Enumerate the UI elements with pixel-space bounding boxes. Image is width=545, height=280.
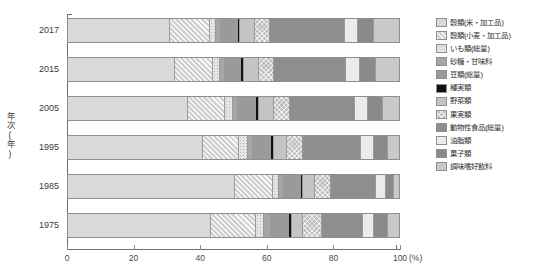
bar-segment bbox=[314, 175, 331, 198]
bar-segment bbox=[273, 97, 290, 120]
bar-segment bbox=[345, 58, 358, 81]
bar-segment bbox=[354, 97, 367, 120]
legend-swatch bbox=[436, 162, 447, 171]
bar-segment bbox=[302, 214, 320, 237]
legend-label: 菓子類 bbox=[450, 150, 471, 157]
legend-item: 穀類(米・加工品) bbox=[436, 16, 543, 29]
y-axis-tick-label: 2015 bbox=[25, 64, 59, 74]
bar-row: 1995 bbox=[67, 135, 400, 160]
x-axis-tick bbox=[333, 245, 334, 250]
bar-segment bbox=[270, 214, 288, 237]
bar-segment bbox=[344, 19, 357, 42]
y-axis-tick-label: 1975 bbox=[25, 220, 59, 230]
bar-segment bbox=[286, 136, 303, 159]
x-axis-tick bbox=[67, 245, 68, 250]
bar-segment bbox=[254, 19, 269, 42]
bar-segment bbox=[272, 175, 279, 198]
legend-swatch bbox=[436, 57, 447, 66]
bar-segment bbox=[258, 58, 273, 81]
bar-row: 2005 bbox=[67, 96, 400, 121]
bar-segment bbox=[255, 214, 263, 237]
bar-segment bbox=[321, 214, 362, 237]
legend-label: 種実類 bbox=[450, 84, 471, 91]
stacked-bar bbox=[67, 57, 400, 82]
bar-segment bbox=[289, 97, 354, 120]
stacked-bar bbox=[67, 135, 400, 160]
bar-segment bbox=[234, 175, 272, 198]
bar-row: 1985 bbox=[67, 174, 400, 199]
x-axis-tick bbox=[134, 245, 135, 250]
x-axis-line bbox=[67, 249, 401, 250]
bar-segment bbox=[375, 175, 385, 198]
legend-item: 油脂類 bbox=[436, 134, 543, 147]
legend-label: いも類(総量) bbox=[450, 45, 490, 52]
x-axis-tick-label: 100 bbox=[393, 253, 407, 263]
bar-segment bbox=[68, 19, 169, 42]
bar-segment bbox=[68, 97, 187, 120]
bar-segment bbox=[187, 97, 223, 120]
bar-segment bbox=[330, 175, 375, 198]
y-axis-title: 年次(年) bbox=[2, 112, 16, 159]
x-axis-tick-label: 40 bbox=[195, 253, 204, 263]
bar-segment bbox=[362, 214, 374, 237]
bar-segment bbox=[252, 136, 270, 159]
bar-segment bbox=[367, 97, 382, 120]
legend-swatch bbox=[436, 110, 447, 119]
legend-item: 菓子類 bbox=[436, 147, 543, 160]
legend-item: 果実類 bbox=[436, 108, 543, 121]
legend-swatch bbox=[436, 123, 447, 132]
bar-segment bbox=[373, 136, 386, 159]
stacked-bar bbox=[67, 96, 400, 121]
bar-segment bbox=[387, 214, 399, 237]
legend-swatch bbox=[436, 31, 447, 40]
x-axis-tick-label: 20 bbox=[129, 253, 138, 263]
bar-row: 2017 bbox=[67, 18, 400, 43]
bar-segment bbox=[283, 175, 300, 198]
bar-segment bbox=[291, 214, 303, 237]
stacked-bar-chart: 年次(年) 020406080100 (%) 20172015200519951… bbox=[0, 0, 545, 280]
legend-label: 砂糖・甘味料 bbox=[450, 58, 492, 65]
bar-segment bbox=[239, 19, 254, 42]
bar-segment bbox=[360, 136, 373, 159]
stacked-bar bbox=[67, 213, 400, 238]
legend-item: 豆類(総量) bbox=[436, 68, 543, 81]
legend-label: 調味嗜好飲料 bbox=[450, 163, 492, 170]
bar-segment bbox=[273, 136, 286, 159]
chart-legend: 穀類(米・加工品)穀類(小麦・加工品)いも類(総量)砂糖・甘味料豆類(総量)種実… bbox=[436, 16, 543, 173]
legend-label: 穀類(米・加工品) bbox=[450, 19, 504, 26]
y-axis-tick-label: 2005 bbox=[25, 103, 59, 113]
bar-segment bbox=[373, 214, 386, 237]
legend-swatch bbox=[436, 44, 447, 53]
bar-segment bbox=[210, 214, 255, 237]
stacked-bar bbox=[67, 18, 400, 43]
bar-segment bbox=[258, 97, 273, 120]
legend-label: 野菜類 bbox=[450, 97, 471, 104]
legend-item: 動物性食品(総量) bbox=[436, 121, 543, 134]
bar-segment bbox=[220, 19, 237, 42]
bar-segment bbox=[382, 97, 399, 120]
bar-segment bbox=[269, 19, 343, 42]
legend-swatch bbox=[436, 136, 447, 145]
legend-item: 砂糖・甘味料 bbox=[436, 55, 543, 68]
legend-label: 動物性食品(総量) bbox=[450, 124, 504, 131]
legend-item: いも類(総量) bbox=[436, 42, 543, 55]
bar-segment bbox=[357, 19, 374, 42]
bar-segment bbox=[68, 58, 174, 81]
x-axis-tick bbox=[267, 245, 268, 250]
stacked-bar bbox=[67, 174, 400, 199]
bar-segment bbox=[373, 19, 398, 42]
bar-segment bbox=[237, 97, 255, 120]
legend-swatch bbox=[436, 97, 447, 106]
legend-label: 油脂類 bbox=[450, 137, 471, 144]
bar-segment bbox=[273, 58, 346, 81]
legend-swatch bbox=[436, 149, 447, 158]
bar-segment bbox=[68, 175, 234, 198]
legend-item: 調味嗜好飲料 bbox=[436, 160, 543, 173]
bar-segment bbox=[393, 175, 399, 198]
bar-row: 2015 bbox=[67, 57, 400, 82]
bar-segment bbox=[224, 58, 241, 81]
bar-segment bbox=[385, 175, 393, 198]
bar-segment bbox=[359, 58, 376, 81]
legend-swatch bbox=[436, 84, 447, 93]
x-axis-cap bbox=[396, 245, 397, 250]
